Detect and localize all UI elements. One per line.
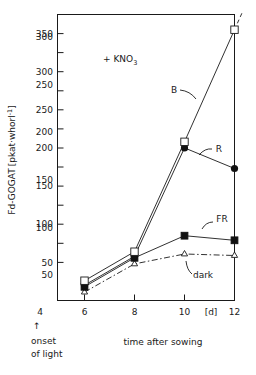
ytl-350: 350 xyxy=(36,29,53,39)
series-b-marker xyxy=(81,277,88,284)
kno3-annotation-base: + KNO xyxy=(103,54,133,64)
series-label-b-text: B xyxy=(171,85,177,95)
x-tick-label-8: 8 xyxy=(132,307,138,317)
y-axis-title-prefix: Fd-GOGAT xyxy=(7,168,17,215)
onset-of-light-note: ↑ onset of light xyxy=(31,321,63,359)
series-label-fr-text: FR xyxy=(216,214,227,224)
x-tick-label-4: 4 xyxy=(37,307,43,317)
ytl-200: 200 xyxy=(36,143,53,153)
x-tick-label-10: 10 xyxy=(179,307,191,317)
y-tick-label-250: 250 xyxy=(36,80,53,90)
fd-gogat-line-chart: 50 100 150 200 250 300 350 4 6 8 10 [d] … xyxy=(0,0,256,375)
ytl-50: 50 xyxy=(42,258,54,268)
x-tick-label-12: 12 xyxy=(229,307,240,317)
ytl-100: 100 xyxy=(36,219,53,229)
series-b-marker xyxy=(131,248,138,255)
x-tick-labels: 4 6 8 10 [d] 12 xyxy=(37,307,240,317)
svg-text:Fd-GOGAT[pkat·whorl-1]: Fd-GOGAT[pkat·whorl-1] xyxy=(6,105,18,214)
x-axis-title: time after sowing xyxy=(124,337,203,347)
ytl-250: 250 xyxy=(36,105,53,115)
x-axis-unit-label: [d] xyxy=(205,307,218,317)
series-fr-marker xyxy=(181,232,188,239)
series-b-marker xyxy=(181,138,188,145)
kno3-annotation-subscript: 3 xyxy=(133,59,137,67)
chart-figure: 50 100 150 200 250 300 350 4 6 8 10 [d] … xyxy=(0,0,256,375)
y-axis-title-group: Fd-GOGAT[pkat·whorl-1] xyxy=(6,105,18,214)
series-label-dark-text: dark xyxy=(193,270,214,280)
onset-arrow-icon: ↑ xyxy=(33,321,41,331)
series-r-marker xyxy=(231,165,238,172)
y-axis-title-unit: [pkat·whorl xyxy=(7,115,17,166)
series-label-r-text: R xyxy=(216,144,222,154)
y-tick-label-50: 50 xyxy=(42,270,54,280)
series-b-marker xyxy=(231,26,238,33)
onset-line2: of light xyxy=(31,349,63,359)
onset-line1: onset xyxy=(31,336,56,346)
ytl-300: 300 xyxy=(36,67,53,77)
x-tick-label-6: 6 xyxy=(82,307,88,317)
y-tick-label-200: 200 xyxy=(36,127,53,137)
y-axis-title-close: ] xyxy=(7,105,17,109)
ytl-150: 150 xyxy=(36,181,53,191)
series-fr-marker xyxy=(231,237,238,244)
